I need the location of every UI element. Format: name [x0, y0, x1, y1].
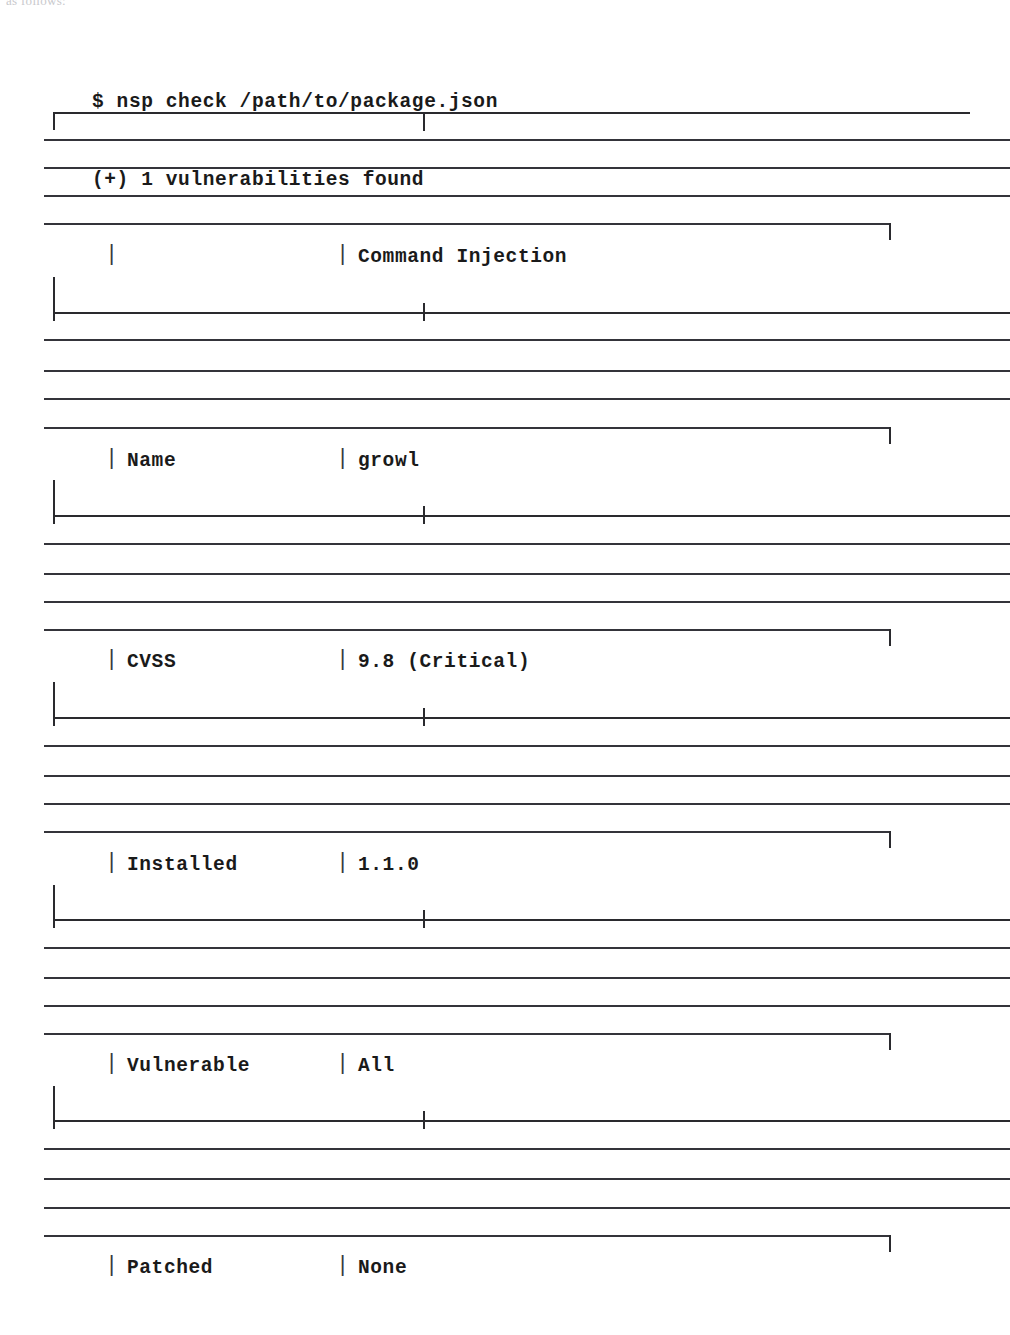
table-tee-top-column-divider	[423, 113, 425, 131]
table-border-line	[44, 775, 1010, 777]
table-tee-column-divider	[423, 506, 425, 524]
table-tee-left	[53, 1111, 55, 1129]
table-border-line	[44, 1033, 890, 1035]
table-corner-top-right	[889, 223, 891, 240]
row-divider-mid: |	[336, 1254, 349, 1278]
table-cell-value-cvss: 9.8 (Critical)	[358, 650, 530, 674]
table-border-line	[44, 223, 890, 225]
table-border-line	[53, 717, 1010, 719]
table-cell-label-cvss: CVSS	[127, 650, 176, 674]
table-cell-value-name: growl	[358, 449, 420, 473]
table-border-line	[44, 629, 890, 631]
row-divider-mid: |	[336, 851, 349, 875]
table-border-line	[44, 1207, 1010, 1209]
table-border-line	[53, 919, 1010, 921]
table-cell-label-installed: Installed	[127, 853, 238, 877]
table-border-line	[44, 745, 1010, 747]
table-corner-right	[889, 1235, 891, 1252]
row-divider-mid: |	[336, 1052, 349, 1076]
table-border-line	[53, 1120, 1010, 1122]
table-cell-label-name: Name	[127, 449, 176, 473]
table-border-line	[53, 112, 970, 114]
row-divider-left: |	[105, 447, 118, 471]
table-cell-value: Command Injection	[358, 245, 567, 269]
table-tee-left	[53, 506, 55, 524]
table-border-line	[44, 1178, 1010, 1180]
row-divider-mid: |	[336, 648, 349, 672]
table-border-line	[44, 947, 1010, 949]
row-divider-mid: |	[336, 243, 349, 267]
row-divider-left: |	[105, 1254, 118, 1278]
table-border-line	[53, 312, 1010, 314]
table-border-line	[44, 803, 1010, 805]
table-corner-right	[889, 427, 891, 444]
table-corner-right	[889, 831, 891, 848]
table-tee-left	[53, 910, 55, 928]
table-corner-right	[889, 629, 891, 646]
table-border-line	[44, 543, 1010, 545]
row-divider-left: |	[105, 648, 118, 672]
table-cell-label-vulnerable: Vulnerable	[127, 1054, 250, 1078]
table-border-line	[44, 601, 1010, 603]
table-corner-right	[889, 1033, 891, 1050]
row-divider-left: |	[105, 1052, 118, 1076]
table-border-line	[44, 370, 1010, 372]
table-border-line	[44, 398, 1010, 400]
row-divider-left: |	[105, 243, 118, 267]
table-tee-column-divider	[423, 910, 425, 928]
table-border-line	[53, 515, 1010, 517]
table-border-line	[44, 339, 1010, 341]
table-border-line	[44, 1235, 890, 1237]
table-cell-value-installed: 1.1.0	[358, 853, 420, 877]
table-tee-left	[53, 303, 55, 321]
table-border-line	[44, 1005, 1010, 1007]
table-border-line	[44, 167, 1010, 169]
table-tee-column-divider	[423, 708, 425, 726]
table-cell-value-patched: None	[358, 1256, 407, 1280]
table-corner-top-left	[53, 113, 55, 130]
table-border-line	[44, 139, 1010, 141]
table-cell-value-vulnerable: All	[358, 1054, 395, 1078]
table-border-line	[44, 195, 1010, 197]
table-border-line	[44, 831, 890, 833]
table-tee-left	[53, 708, 55, 726]
table-tee-column-divider	[423, 1111, 425, 1129]
table-border-line	[44, 573, 1010, 575]
vulnerability-table: | | Command Injection | | Name growl | |…	[0, 0, 1010, 1335]
row-divider-left: |	[105, 851, 118, 875]
table-cell-label-patched: Patched	[127, 1256, 213, 1280]
table-border-line	[44, 1148, 1010, 1150]
row-divider-mid: |	[336, 447, 349, 471]
table-border-line	[44, 977, 1010, 979]
table-tee-column-divider	[423, 303, 425, 321]
table-border-line	[44, 427, 890, 429]
